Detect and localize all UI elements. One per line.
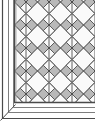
diagram-canvas <box>0 0 95 121</box>
field-diamond-pattern <box>14 0 95 102</box>
tile-border-diagram <box>0 0 95 121</box>
diagonal-tile-field <box>14 0 95 102</box>
